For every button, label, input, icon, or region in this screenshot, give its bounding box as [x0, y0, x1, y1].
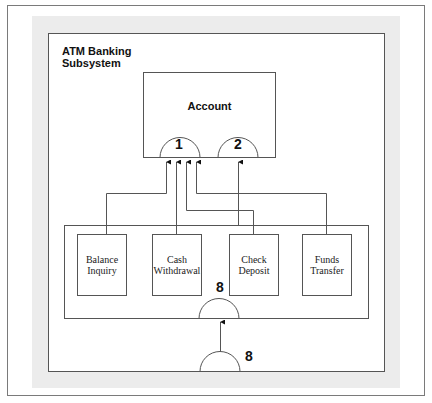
diagram-canvas: ATM Banking Subsystem Account Balance In… — [0, 0, 432, 403]
container-port-8-semicircle — [199, 299, 239, 319]
port-2-label: 2 — [234, 137, 242, 151]
subsystem-port-8-label: 8 — [245, 349, 253, 363]
subsystem-port-8-semicircle — [200, 352, 240, 372]
balance-inquiry-connector — [107, 162, 167, 234]
port-1-label: 1 — [175, 137, 183, 151]
connector-layer — [0, 0, 432, 403]
container-port-8-label: 8 — [216, 280, 224, 294]
funds-transfer-connector — [197, 162, 327, 234]
